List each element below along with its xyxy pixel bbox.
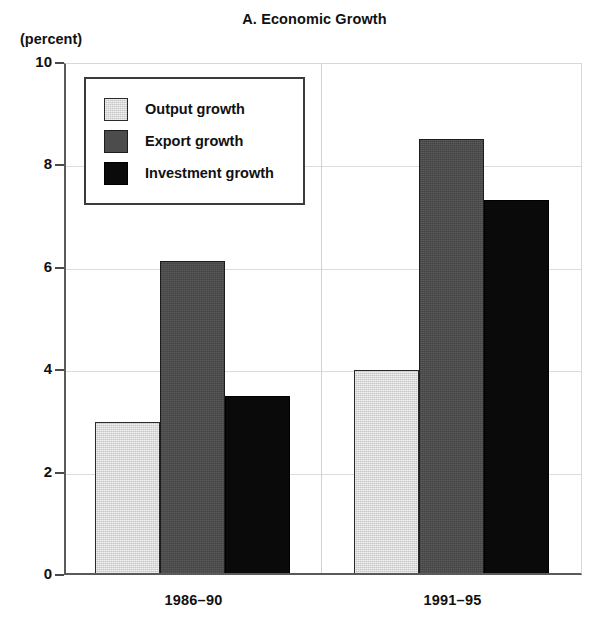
legend-item-export: Export growth xyxy=(104,125,303,157)
y-tick-label: 4 xyxy=(8,360,52,377)
legend-label-output-growth: Output growth xyxy=(145,101,245,117)
legend-label-investment-growth: Investment growth xyxy=(145,165,274,181)
bar-investment-growth-1991–95 xyxy=(484,200,549,573)
legend-swatch-investment-growth xyxy=(104,162,128,185)
y-tick-mark xyxy=(55,62,64,64)
category-label: 1991–95 xyxy=(323,592,582,608)
legend-swatch-export-growth xyxy=(104,130,128,153)
category-label: 1986–90 xyxy=(64,592,323,608)
y-tick-mark xyxy=(55,369,64,371)
bar-export-growth-1986–90 xyxy=(160,261,225,573)
y-tick-label: 6 xyxy=(8,258,52,275)
chart-title: A. Economic Growth xyxy=(0,11,611,27)
y-tick-mark xyxy=(55,164,64,166)
y-tick-mark xyxy=(55,472,64,474)
legend-item-investment: Investment growth xyxy=(104,157,303,189)
bar-export-growth-1991–95 xyxy=(419,139,484,573)
y-axis-unit-label: (percent) xyxy=(20,31,82,47)
bar-investment-growth-1986–90 xyxy=(225,396,290,573)
legend-swatch-output-growth xyxy=(104,98,128,121)
chart-legend: Output growth Export growth Investment g… xyxy=(84,77,305,205)
legend-label-export-growth: Export growth xyxy=(145,133,243,149)
bar-output-growth-1991–95 xyxy=(354,370,419,573)
category-group-separator xyxy=(321,64,322,573)
bar-output-growth-1986–90 xyxy=(95,422,160,573)
y-tick-label: 0 xyxy=(8,565,52,582)
y-tick-mark xyxy=(55,267,64,269)
economic-growth-bar-chart: A. Economic Growth (percent) 0246810 198… xyxy=(0,0,611,630)
y-tick-label: 2 xyxy=(8,463,52,480)
y-tick-label: 8 xyxy=(8,155,52,172)
legend-item-output: Output growth xyxy=(104,93,303,125)
y-tick-mark xyxy=(55,574,64,576)
y-tick-label: 10 xyxy=(8,53,52,70)
